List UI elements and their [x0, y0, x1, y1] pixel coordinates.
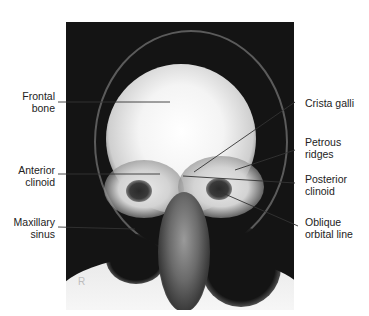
nasal-cavity-region [158, 192, 210, 310]
label-posterior-clinoid: Posterior clinoid [305, 173, 369, 197]
label-maxillary-sinus: Maxillary sinus [0, 216, 55, 240]
label-frontal-bone: Frontal bone [5, 90, 55, 114]
right-orbit-dark [206, 178, 232, 200]
left-maxillary-dark [106, 234, 166, 284]
right-maxillary-dark [201, 227, 281, 307]
left-orbit-dark [126, 180, 152, 202]
label-crista-galli: Crista galli [305, 97, 369, 109]
skull-radiograph: R [66, 22, 294, 310]
side-marker: R [78, 276, 85, 287]
label-oblique-orbital-line: Oblique orbital line [305, 216, 369, 240]
label-petrous-ridges: Petrous ridges [305, 136, 369, 160]
label-anterior-clinoid: Anterior clinoid [0, 164, 55, 188]
